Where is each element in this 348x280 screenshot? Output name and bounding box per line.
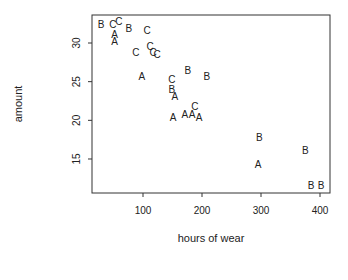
- y-axis: 15202530: [71, 37, 92, 165]
- y-tick-label: 15: [71, 153, 82, 165]
- data-points: AAAAAAAAABBBBBBBBBCCCCCCCCC: [98, 16, 325, 192]
- plot-frame: [92, 15, 330, 193]
- point-marker-c: C: [168, 74, 175, 85]
- scatter-chart: 100200300400 15202530 AAAAAAAAABBBBBBBBB…: [0, 0, 348, 280]
- x-tick-label: 200: [194, 205, 211, 216]
- y-tick-label: 20: [71, 114, 82, 126]
- point-marker-c: C: [132, 47, 139, 58]
- point-marker-b: B: [98, 19, 105, 30]
- y-axis-label: amount: [12, 86, 24, 123]
- point-marker-a: A: [255, 159, 262, 170]
- point-marker-b: B: [302, 145, 309, 156]
- x-axis-label: hours of wear: [178, 232, 245, 244]
- x-tick-label: 400: [312, 205, 329, 216]
- point-marker-b: B: [126, 23, 133, 34]
- x-tick-label: 300: [253, 205, 270, 216]
- point-marker-a: A: [111, 36, 118, 47]
- point-marker-c: C: [144, 25, 151, 36]
- point-marker-a: A: [138, 71, 145, 82]
- y-tick-label: 30: [71, 37, 82, 49]
- point-marker-b: B: [185, 65, 192, 76]
- x-tick-label: 100: [135, 205, 152, 216]
- point-marker-a: A: [170, 112, 177, 123]
- point-marker-b: B: [308, 180, 315, 191]
- point-marker-b: B: [169, 84, 176, 95]
- point-marker-c: C: [115, 16, 122, 27]
- point-marker-b: B: [318, 180, 325, 191]
- point-marker-a: A: [196, 112, 203, 123]
- chart-canvas: 100200300400 15202530 AAAAAAAAABBBBBBBBB…: [0, 0, 348, 280]
- point-marker-b: B: [256, 132, 263, 143]
- point-marker-c: C: [154, 49, 161, 60]
- point-marker-c: C: [191, 101, 198, 112]
- x-axis: 100200300400: [135, 193, 329, 216]
- point-marker-b: B: [203, 71, 210, 82]
- point-marker-a: A: [182, 109, 189, 120]
- y-tick-label: 25: [71, 76, 82, 88]
